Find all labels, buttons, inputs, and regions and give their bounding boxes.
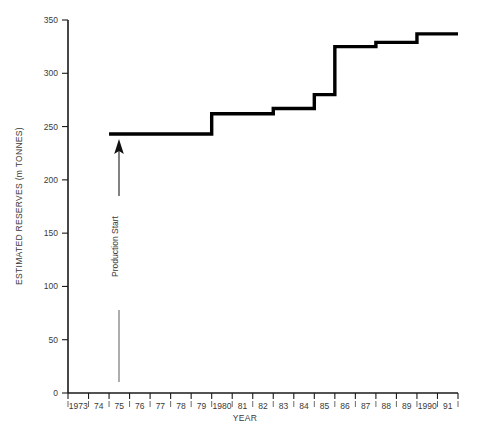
y-tick-label: 0 — [53, 388, 58, 398]
x-tick-label: 83 — [279, 401, 289, 411]
y-tick-label: 200 — [44, 175, 58, 185]
x-tick-label: 74 — [94, 401, 104, 411]
y-axis-title: ESTIMATED RESERVES (m TONNES) — [14, 127, 24, 285]
production-start-label: Production Start — [110, 215, 120, 277]
x-tick-label: 85 — [320, 401, 330, 411]
reserves-step-chart: 050100150200250300350 197374757677787919… — [0, 0, 484, 436]
axis-lines — [68, 20, 458, 393]
y-tick-label: 150 — [44, 228, 58, 238]
y-tick-label: 350 — [44, 15, 58, 25]
x-tick-label: 77 — [156, 401, 166, 411]
y-tick-label: 300 — [44, 68, 58, 78]
x-tick-label: 81 — [238, 401, 248, 411]
reserves-step-line — [109, 34, 458, 134]
y-tick-label: 50 — [49, 335, 59, 345]
y-axis-tick-labels: 050100150200250300350 — [44, 15, 58, 398]
x-tick-label: 75 — [115, 401, 125, 411]
x-tick-label: 76 — [135, 401, 145, 411]
x-tick-label: 84 — [299, 401, 309, 411]
y-tick-label: 100 — [44, 281, 58, 291]
y-axis-ticks — [62, 20, 68, 393]
x-tick-label: 79 — [197, 401, 207, 411]
x-tick-label: 1980 — [212, 401, 231, 411]
x-tick-label: 78 — [176, 401, 186, 411]
chart-container: 050100150200250300350 197374757677787919… — [0, 0, 484, 436]
x-tick-label: 1990 — [418, 401, 437, 411]
x-axis-title: YEAR — [233, 413, 257, 423]
x-tick-label: 86 — [340, 401, 350, 411]
y-tick-label: 250 — [44, 122, 58, 132]
production-start-annotation: Production Start — [110, 139, 124, 382]
x-tick-label: 1973 — [69, 401, 88, 411]
x-tick-label: 82 — [258, 401, 268, 411]
x-tick-label: 89 — [402, 401, 412, 411]
x-tick-label: 91 — [443, 401, 453, 411]
x-tick-label: 87 — [361, 401, 371, 411]
x-tick-label: 88 — [381, 401, 391, 411]
x-axis-tick-labels: 1973747576777879198081828384858687888919… — [69, 401, 453, 411]
